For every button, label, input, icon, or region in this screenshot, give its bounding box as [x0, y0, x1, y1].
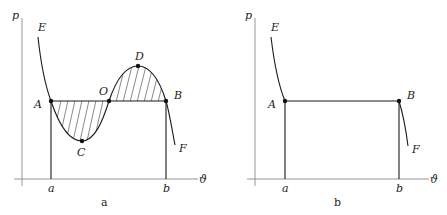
x-tick-b: b — [163, 182, 170, 195]
x-tick-b: b — [396, 182, 403, 195]
panel-a: p ϑ E A O B C D F a b a — [12, 9, 207, 209]
caption-a: a — [101, 196, 108, 209]
y-axis-label: p — [12, 9, 19, 22]
curve-EA — [271, 37, 285, 101]
point-B — [397, 99, 401, 103]
point-A — [283, 99, 287, 103]
label-B: B — [173, 89, 182, 102]
panel-b: p ϑ E A B F a b b — [245, 9, 438, 209]
label-E: E — [37, 21, 46, 34]
figure: p ϑ E A O B C D F a b a p ϑ E A B F a b … — [0, 0, 447, 215]
label-A: A — [33, 98, 42, 111]
label-C: C — [77, 146, 86, 159]
label-E: E — [270, 21, 279, 34]
curve-BF — [399, 101, 408, 146]
label-D: D — [134, 50, 144, 63]
point-B — [164, 99, 168, 103]
label-A: A — [267, 98, 276, 111]
x-axis-label: ϑ — [430, 173, 438, 186]
x-tick-a: a — [282, 182, 289, 195]
x-tick-a: a — [48, 182, 55, 195]
y-axis-label: p — [245, 9, 252, 22]
point-D — [136, 64, 140, 68]
point-C — [80, 139, 84, 143]
caption-b: b — [334, 196, 341, 209]
label-F: F — [178, 142, 187, 155]
label-F: F — [411, 143, 420, 156]
point-A — [49, 99, 53, 103]
label-B: B — [406, 89, 415, 102]
x-axis-label: ϑ — [199, 173, 207, 186]
label-O: O — [99, 85, 108, 98]
point-O — [107, 99, 111, 103]
